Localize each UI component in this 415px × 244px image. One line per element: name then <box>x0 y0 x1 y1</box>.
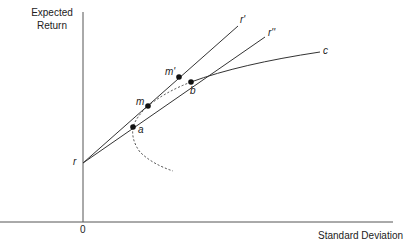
label-r: r <box>73 156 76 167</box>
y-axis-title-line2: Return <box>22 19 82 32</box>
point-m <box>145 103 151 109</box>
chart-canvas <box>0 0 415 244</box>
label-b: b <box>190 85 196 96</box>
label-m: m <box>136 96 144 107</box>
curve-c <box>191 52 320 82</box>
origin-label: 0 <box>80 224 86 235</box>
y-axis-title: Expected Return <box>22 6 82 32</box>
label-r-double-prime: r'' <box>268 27 275 38</box>
y-axis-title-line1: Expected <box>22 6 82 19</box>
label-c: c <box>323 45 328 56</box>
x-axis-title: Standard Deviation <box>318 230 403 241</box>
point-a <box>130 124 136 130</box>
point-b <box>188 79 194 85</box>
label-r-prime: r' <box>240 14 245 25</box>
label-a: a <box>138 124 144 135</box>
label-m-prime: m' <box>165 66 175 77</box>
curve-lower-solid <box>83 82 191 163</box>
point-m-prime <box>176 74 182 80</box>
line-r-prime <box>83 26 238 163</box>
line-r-double-prime <box>83 37 265 163</box>
